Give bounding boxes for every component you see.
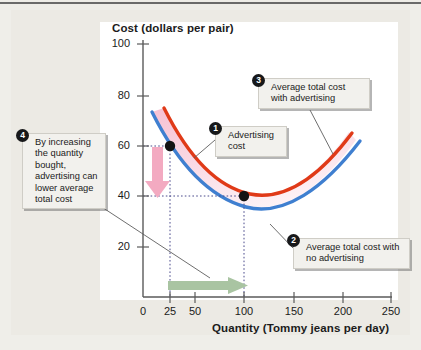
y-tick-40: 40 (104, 189, 130, 201)
y-tick-20: 20 (104, 240, 130, 252)
callout-atc-with-advertising: 3 Average total cost with advertising (258, 78, 370, 109)
callout-number-4: 4 (16, 129, 29, 142)
callout-text-2: Average total cost with no advertising (306, 242, 399, 263)
y-axis-title: Cost (dollars per pair) (112, 22, 234, 34)
callout-text-1: Advertising cost (228, 130, 274, 151)
callout-number-1: 1 (209, 122, 222, 135)
x-tick-200: 200 (330, 305, 356, 317)
x-tick-25: 25 (157, 305, 183, 317)
y-tick-100: 100 (104, 37, 130, 49)
callout-number-3: 3 (252, 74, 265, 87)
y-tick-80: 80 (104, 89, 130, 101)
chart-figure: Cost (dollars per pair) Quantity (Tommy … (0, 0, 421, 350)
callout-atc-no-advertising: 2 Average total cost with no advertising (293, 238, 410, 269)
x-tick-0: 0 (130, 305, 156, 317)
x-axis-title: Quantity (Tommy jeans per day) (212, 322, 389, 334)
top-divider-rule (0, 2, 421, 4)
callout-text-4: By increasing the quantity bought, adver… (35, 137, 98, 204)
y-tick-60: 60 (104, 139, 130, 151)
callout-number-2: 2 (287, 234, 300, 247)
x-tick-100: 100 (231, 305, 257, 317)
x-tick-250: 250 (378, 305, 404, 317)
x-tick-50: 50 (182, 305, 208, 317)
x-tick-150: 150 (281, 305, 307, 317)
callout-lower-average-total-cost: 4 By increasing the quantity bought, adv… (22, 133, 106, 209)
callout-text-3: Average total cost with advertising (271, 82, 345, 103)
callout-advertising-cost: 1 Advertising cost (215, 126, 287, 157)
